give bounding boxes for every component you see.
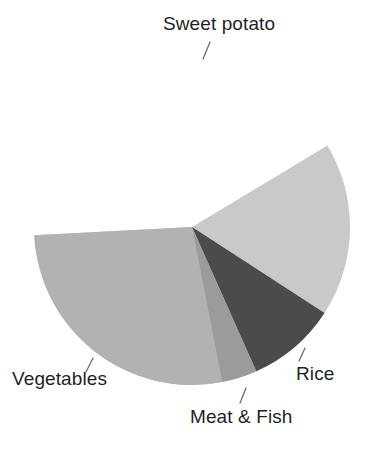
leader-line-rice bbox=[299, 348, 305, 361]
pie-label-vegetables: Vegetables bbox=[12, 369, 107, 390]
leader-line-sweet-potato bbox=[203, 42, 210, 59]
pie-slices-group bbox=[34, 146, 350, 385]
pie-label-sweet-potato: Sweet potato bbox=[163, 14, 275, 35]
pie-label-rice: Rice bbox=[296, 364, 334, 385]
pie-label-meat-fish: Meat & Fish bbox=[190, 407, 292, 428]
pie-chart: Sweet potato Vegetables Meat & Fish Rice bbox=[0, 0, 370, 451]
pie-slice-vegetables[interactable] bbox=[34, 227, 222, 385]
leader-line-meat-fish bbox=[240, 388, 246, 403]
